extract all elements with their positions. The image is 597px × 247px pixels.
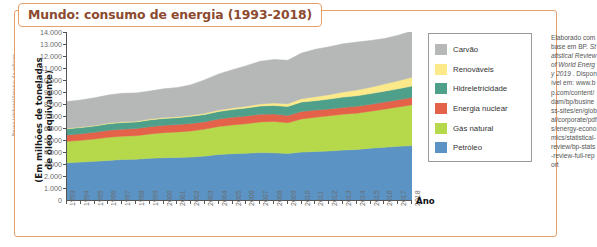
- legend-swatch: [435, 44, 447, 55]
- y-tick-mark: [63, 140, 67, 141]
- x-tick-mark: [370, 200, 371, 204]
- y-tick-label: 6.000: [26, 125, 62, 132]
- legend-swatch: [435, 103, 447, 114]
- chart-title: Mundo: consumo de energia (1993-2018): [18, 3, 322, 27]
- x-tick-label: 2016: [386, 190, 393, 206]
- x-tick-label: 2013: [345, 190, 352, 206]
- x-tick-label: 2015: [373, 190, 380, 206]
- x-tick-mark: [383, 200, 384, 204]
- legend-swatch: [435, 142, 447, 153]
- legend-label: Gás natural: [453, 124, 493, 133]
- x-tick-mark: [397, 200, 398, 204]
- y-tick-mark: [63, 44, 67, 45]
- legend-label: Hidreletricidade: [453, 84, 507, 93]
- x-tick-label: 1993: [69, 190, 76, 206]
- legend-label: Petróleo: [453, 143, 482, 152]
- x-tick-mark: [245, 200, 246, 204]
- source-text-fragment: www.bp.com/content/dam/bp/business-sites…: [551, 79, 597, 168]
- x-tick-mark: [301, 200, 302, 204]
- x-tick-label: 2005: [235, 190, 242, 206]
- x-tick-mark: [135, 200, 136, 204]
- legend-item: Energia nuclear: [435, 99, 531, 119]
- y-tick-label: 4.000: [26, 149, 62, 156]
- x-tick-label: 2012: [331, 190, 338, 206]
- legend-swatch: [435, 123, 447, 134]
- x-tick-mark: [259, 200, 260, 204]
- y-tick-label: 0: [26, 197, 62, 204]
- y-tick-mark: [63, 92, 67, 93]
- legend-item: Petróleo: [435, 138, 531, 158]
- y-tick-mark: [63, 80, 67, 81]
- x-tick-mark: [232, 200, 233, 204]
- x-tick-label: 2000: [166, 190, 173, 206]
- x-tick-label: 2009: [290, 190, 297, 206]
- y-tick-label: 5.000: [26, 137, 62, 144]
- y-tick-label: 13.000: [26, 41, 62, 48]
- x-tick-mark: [342, 200, 343, 204]
- y-tick-mark: [63, 32, 67, 33]
- x-tick-mark: [411, 200, 412, 204]
- legend-item: Renováveis: [435, 60, 531, 80]
- x-tick-mark: [204, 200, 205, 204]
- x-tick-label: 1999: [152, 190, 159, 206]
- x-tick-mark: [121, 200, 122, 204]
- x-tick-mark: [66, 200, 67, 204]
- y-tick-mark: [63, 188, 67, 189]
- y-tick-label: 8.000: [26, 101, 62, 108]
- x-tick-label: 2008: [276, 190, 283, 206]
- x-tick-mark: [287, 200, 288, 204]
- x-tick-mark: [80, 200, 81, 204]
- y-tick-mark: [63, 68, 67, 69]
- x-tick-mark: [314, 200, 315, 204]
- y-tick-label: 10.000: [26, 77, 62, 84]
- x-tick-label: 2002: [193, 190, 200, 206]
- x-tick-label: 1995: [97, 190, 104, 206]
- y-tick-mark: [63, 164, 67, 165]
- x-tick-mark: [94, 200, 95, 204]
- x-tick-label: 2017: [400, 190, 407, 206]
- source-text-fragment: 2019: [556, 70, 573, 77]
- y-tick-label: 14.000: [26, 29, 62, 36]
- x-tick-label: 2007: [262, 190, 269, 206]
- y-tick-label: 2.000: [26, 173, 62, 180]
- source-text-fragment: Elaborado: [551, 34, 583, 41]
- y-tick-label: 12.000: [26, 53, 62, 60]
- x-tick-label: 2014: [359, 190, 366, 206]
- stacked-area-series: [67, 32, 412, 200]
- y-tick-label: 3.000: [26, 161, 62, 168]
- plot-area: [66, 32, 412, 201]
- x-tick-label: 1997: [124, 190, 131, 206]
- x-tick-mark: [218, 200, 219, 204]
- source-text-fragment: BP.: [578, 43, 590, 50]
- x-tick-label: 1996: [110, 190, 117, 206]
- y-tick-label: 7.000: [26, 113, 62, 120]
- y-tick-mark: [63, 104, 67, 105]
- legend-item: Gás natural: [435, 118, 531, 138]
- x-tick-mark: [328, 200, 329, 204]
- legend-item: Carvão: [435, 40, 531, 60]
- x-tick-mark: [107, 200, 108, 204]
- x-tick-label: 2001: [179, 190, 186, 206]
- y-tick-mark: [63, 116, 67, 117]
- x-tick-label: 1998: [138, 190, 145, 206]
- y-tick-mark: [63, 56, 67, 57]
- legend-swatch: [435, 64, 447, 75]
- x-tick-label: 1994: [83, 190, 90, 206]
- x-tick-label: 2010: [304, 190, 311, 206]
- source-citation: Elaborado com base em BP. Statistical Re…: [551, 33, 597, 169]
- legend-label: Carvão: [453, 45, 478, 54]
- y-tick-mark: [63, 128, 67, 129]
- x-tick-mark: [190, 200, 191, 204]
- legend-label: Renováveis: [453, 65, 494, 74]
- y-tick-label: 9.000: [26, 89, 62, 96]
- x-tick-mark: [356, 200, 357, 204]
- x-tick-mark: [273, 200, 274, 204]
- legend-item: Hidreletricidade: [435, 79, 531, 99]
- x-tick-mark: [149, 200, 150, 204]
- y-tick-label: 11.000: [26, 65, 62, 72]
- x-tick-label: 2004: [221, 190, 228, 206]
- x-tick-mark: [163, 200, 164, 204]
- y-tick-mark: [63, 152, 67, 153]
- x-tick-mark: [176, 200, 177, 204]
